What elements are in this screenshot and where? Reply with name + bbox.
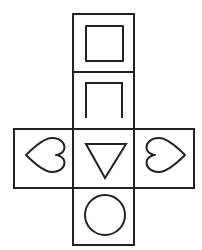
square-icon — [86, 26, 123, 61]
face-top — [73, 14, 134, 72]
face-left — [14, 129, 73, 188]
face-bottom — [73, 188, 134, 245]
heart-right-icon — [147, 138, 185, 172]
inverted-u-icon — [86, 83, 122, 118]
heart-left-icon — [26, 138, 64, 172]
face-right — [134, 129, 194, 188]
face-center — [73, 129, 134, 188]
cube-net-diagram — [0, 0, 202, 250]
face-upper-middle — [73, 72, 134, 129]
circle-icon — [85, 195, 125, 235]
triangle-down-icon — [86, 144, 126, 178]
